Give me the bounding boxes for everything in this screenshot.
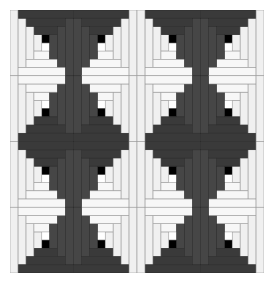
dark-strip xyxy=(208,84,216,125)
light-strip xyxy=(34,166,42,182)
quilt-block xyxy=(201,10,265,76)
dark-strip xyxy=(26,18,66,26)
light-strip xyxy=(34,224,50,232)
light-strip xyxy=(208,199,256,207)
light-strip xyxy=(81,68,129,76)
dark-strip xyxy=(18,10,74,18)
light-strip xyxy=(113,224,121,257)
light-strip xyxy=(145,150,153,199)
light-strip xyxy=(121,18,129,67)
dark-strip xyxy=(216,248,240,256)
light-strip xyxy=(240,224,248,257)
quilt-block xyxy=(74,207,138,273)
light-strip xyxy=(161,35,169,51)
dark-strip xyxy=(208,18,248,26)
center-square xyxy=(42,240,50,248)
center-square xyxy=(42,109,50,117)
dark-strip xyxy=(193,150,201,208)
light-strip xyxy=(34,183,50,191)
light-strip xyxy=(256,76,264,142)
dark-strip xyxy=(153,18,193,26)
light-strip xyxy=(129,207,137,273)
light-strip xyxy=(153,26,161,59)
light-strip xyxy=(34,51,50,59)
light-strip xyxy=(240,26,248,59)
log-cabin-quilt xyxy=(10,10,264,273)
dark-strip xyxy=(177,166,185,191)
light-strip xyxy=(129,142,137,208)
dark-strip xyxy=(34,248,58,256)
dark-strip xyxy=(58,158,66,199)
light-strip xyxy=(161,51,177,59)
dark-strip xyxy=(74,142,130,150)
quilt-block xyxy=(10,10,74,76)
light-strip xyxy=(145,76,193,84)
light-strip xyxy=(34,100,42,116)
light-strip xyxy=(34,92,50,100)
dark-strip xyxy=(74,150,82,208)
dark-strip xyxy=(177,224,185,249)
light-strip xyxy=(153,84,185,92)
dark-strip xyxy=(74,207,82,265)
dark-strip xyxy=(34,26,58,34)
center-square xyxy=(97,35,105,43)
light-strip xyxy=(113,158,121,191)
light-strip xyxy=(18,207,66,215)
light-strip xyxy=(129,10,137,76)
light-strip xyxy=(26,224,34,257)
dark-strip xyxy=(185,158,193,199)
dark-strip xyxy=(81,84,89,125)
light-strip xyxy=(81,76,129,84)
light-strip xyxy=(105,232,113,248)
dark-strip xyxy=(145,265,201,273)
dark-strip xyxy=(26,150,66,158)
quilt-block xyxy=(201,76,265,142)
dark-strip xyxy=(185,215,193,256)
dark-strip xyxy=(58,215,66,256)
light-strip xyxy=(224,183,240,191)
light-strip xyxy=(97,51,113,59)
dark-strip xyxy=(153,125,193,133)
light-strip xyxy=(18,215,26,264)
dark-strip xyxy=(18,133,74,141)
center-square xyxy=(224,166,232,174)
quilt-block xyxy=(74,76,138,142)
dark-strip xyxy=(161,117,185,125)
light-strip xyxy=(129,76,137,142)
light-strip xyxy=(18,150,26,199)
light-strip xyxy=(240,92,248,125)
center-square xyxy=(97,166,105,174)
light-strip xyxy=(224,51,240,59)
dark-strip xyxy=(161,26,185,34)
center-square xyxy=(42,166,50,174)
quilt-block xyxy=(201,142,265,208)
dark-strip xyxy=(201,76,209,134)
light-strip xyxy=(232,35,240,51)
dark-strip xyxy=(74,76,82,134)
center-square xyxy=(169,166,177,174)
dark-strip xyxy=(81,18,121,26)
dark-strip xyxy=(208,215,216,256)
dark-strip xyxy=(26,257,66,265)
light-strip xyxy=(34,35,42,51)
dark-strip xyxy=(193,76,201,134)
dark-strip xyxy=(161,248,185,256)
dark-strip xyxy=(208,125,248,133)
dark-strip xyxy=(185,84,193,125)
dark-strip xyxy=(208,26,216,67)
dark-strip xyxy=(201,133,257,141)
light-strip xyxy=(216,84,248,92)
light-strip xyxy=(161,224,177,232)
dark-strip xyxy=(216,35,224,60)
dark-strip xyxy=(145,10,201,18)
light-strip xyxy=(224,224,240,232)
light-strip xyxy=(145,215,153,264)
light-strip xyxy=(89,84,121,92)
dark-strip xyxy=(153,257,193,265)
light-strip xyxy=(153,215,185,223)
dark-strip xyxy=(177,35,185,60)
quilt-block xyxy=(201,207,265,273)
center-square xyxy=(169,109,177,117)
light-strip xyxy=(256,207,264,273)
dark-strip xyxy=(50,224,58,249)
